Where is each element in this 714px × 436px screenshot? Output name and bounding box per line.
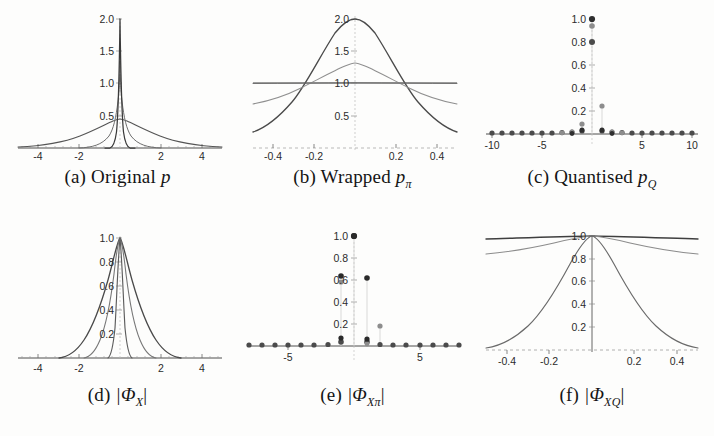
- y-tick-label: 0.2: [571, 321, 586, 333]
- x-tick-label: 4: [199, 150, 205, 162]
- plot-area-b: -0.4 -0.2 0.2 0.4 0.5 1.0 1.5 2.0: [235, 0, 470, 162]
- x-tick-labels-a: -4 -2 2 4: [33, 150, 205, 162]
- y-tick-label: 0.6: [333, 274, 348, 286]
- x-tick-labels-f: -0.4 -0.2 0.2 0.4: [498, 355, 684, 367]
- y-tick-label: 0.8: [571, 36, 586, 48]
- y-tick-label: 0.8: [333, 252, 348, 264]
- x-tick-label: 0.2: [627, 355, 642, 367]
- y-tick-label: 0.5: [99, 110, 114, 122]
- y-tick-label: 2.0: [334, 13, 349, 25]
- panel-grid: -4 -2 2 4 0.5 1.0 1.5 2.0 (a) Original: [0, 0, 714, 436]
- axis-group-f: [486, 236, 698, 354]
- x-tick-label: 0.2: [389, 150, 404, 162]
- caption-symbol: |Φ: [584, 384, 604, 405]
- x-tick-label: -2: [74, 150, 83, 162]
- plot-c-svg: -10 -5 5 10 0.2 0.4 0.6 0.8 1.0: [470, 0, 714, 162]
- plot-area-e: -5 5 0.2 0.4 0.6 0.8 1.0: [235, 218, 470, 380]
- y-tick-label: 0.2: [333, 318, 348, 330]
- caption-text: Wrapped: [321, 166, 391, 187]
- caption-symbol: p: [161, 166, 171, 187]
- caption-closing-bar: |: [621, 384, 625, 405]
- y-tick-label: 0.6: [571, 275, 586, 287]
- x-tick-labels-c: -10 -5 5 10: [484, 139, 698, 151]
- x-tick-label: 10: [686, 139, 698, 151]
- caption-prefix: (b): [293, 166, 316, 187]
- caption-subscript: XQ: [604, 395, 620, 409]
- plot-area-c: -10 -5 5 10 0.2 0.4 0.6 0.8 1.0: [470, 0, 714, 162]
- y-tick-label: 1.0: [333, 230, 348, 242]
- caption-prefix: (f): [559, 384, 579, 405]
- panel-caption-a: (a) Original p: [64, 166, 170, 188]
- panel-d: -4 -2 2 4 0.2 0.4 0.6 0.8 1.0 (d): [0, 218, 235, 436]
- panel-caption-b: (b) Wrapped pπ: [293, 166, 412, 192]
- y-tick-labels-f: 0.2 0.4 0.6 0.8 1.0: [571, 230, 586, 333]
- caption-symbol: |Φ: [116, 384, 136, 405]
- caption-text: Original: [91, 166, 156, 187]
- x-tick-label: 0.4: [430, 150, 445, 162]
- x-tick-label: -4: [33, 362, 42, 374]
- caption-symbol: |Φ: [347, 384, 367, 405]
- y-tick-labels-d: 0.2 0.4 0.6 0.8 1.0: [99, 232, 114, 340]
- y-tick-label: 1.0: [571, 230, 586, 242]
- figure-container: -4 -2 2 4 0.5 1.0 1.5 2.0 (a) Original: [0, 0, 714, 436]
- panel-a: -4 -2 2 4 0.5 1.0 1.5 2.0 (a) Original: [0, 0, 235, 218]
- caption-text: Quantised: [554, 166, 633, 187]
- panel-f: -0.4 -0.2 0.2 0.4 0.2 0.4 0.6 0.8 1.0 (f: [470, 218, 714, 436]
- y-tick-label: 1.0: [571, 13, 586, 25]
- caption-subscript: Q: [648, 177, 657, 191]
- y-tick-label: 0.2: [571, 105, 586, 117]
- panel-c: -10 -5 5 10 0.2 0.4 0.6 0.8 1.0 (c): [470, 0, 714, 218]
- x-tick-label: 0.4: [670, 355, 685, 367]
- x-tick-labels-b: -0.4 -0.2 0.2 0.4: [264, 150, 444, 162]
- x-tick-label: -5: [283, 351, 292, 363]
- caption-prefix: (d): [88, 384, 111, 405]
- caption-closing-bar: |: [381, 384, 385, 405]
- y-tick-label: 0.2: [99, 328, 114, 340]
- x-tick-label: 5: [417, 351, 423, 363]
- y-tick-label: 1.5: [334, 45, 349, 57]
- plot-b-svg: -0.4 -0.2 0.2 0.4 0.5 1.0 1.5 2.0: [235, 0, 470, 162]
- panel-b: -0.4 -0.2 0.2 0.4 0.5 1.0 1.5 2.0 (b) Wr…: [235, 0, 470, 218]
- y-tick-label: 0.8: [99, 256, 114, 268]
- plot-area-a: -4 -2 2 4 0.5 1.0 1.5 2.0: [0, 0, 235, 162]
- caption-subscript: π: [406, 177, 412, 191]
- caption-prefix: (c): [527, 166, 549, 187]
- x-tick-labels-e: -5 5: [283, 351, 423, 363]
- y-tick-label: 0.6: [571, 59, 586, 71]
- y-tick-label: 1.0: [334, 77, 349, 89]
- x-tick-label: -10: [484, 139, 499, 151]
- plot-area-f: -0.4 -0.2 0.2 0.4 0.2 0.4 0.6 0.8 1.0: [470, 218, 714, 380]
- panel-caption-c: (c) Quantised pQ: [527, 166, 656, 192]
- caption-prefix: (a): [64, 166, 86, 187]
- caption-symbol: p: [396, 166, 406, 187]
- y-tick-label: 0.6: [99, 280, 114, 292]
- y-tick-label: 0.8: [571, 253, 586, 265]
- y-tick-label: 1.0: [99, 232, 114, 244]
- y-tick-label: 1.0: [99, 77, 114, 89]
- curves-b: [253, 19, 457, 132]
- panel-e: -5 5 0.2 0.4 0.6 0.8 1.0 (e) |ΦXπ|: [235, 218, 470, 436]
- x-tick-label: -0.2: [540, 355, 558, 367]
- y-tick-label: 0.5: [334, 110, 349, 122]
- curve-b-peaked: [253, 19, 457, 132]
- x-tick-label: -5: [537, 139, 546, 151]
- caption-closing-bar: |: [143, 384, 147, 405]
- y-tick-labels-a: 0.5 1.0 1.5 2.0: [99, 13, 114, 122]
- caption-subscript: Xπ: [367, 395, 381, 409]
- plot-area-d: -4 -2 2 4 0.2 0.4 0.6 0.8 1.0: [0, 218, 235, 380]
- plot-e-svg: -5 5 0.2 0.4 0.6 0.8 1.0: [235, 218, 470, 380]
- y-tick-labels-c: 0.2 0.4 0.6 0.8 1.0: [571, 13, 586, 117]
- y-tick-marks: [351, 19, 357, 116]
- plot-d-svg: -4 -2 2 4 0.2 0.4 0.6 0.8 1.0: [0, 218, 235, 380]
- y-tick-label: 0.4: [333, 296, 348, 308]
- x-tick-label: -4: [33, 150, 42, 162]
- x-tick-label: 2: [158, 150, 164, 162]
- panel-caption-d: (d) |ΦX|: [88, 384, 147, 410]
- x-tick-label: -0.4: [498, 355, 516, 367]
- x-tick-labels-d: -4 -2 2 4: [33, 362, 205, 374]
- panel-caption-f: (f) |ΦXQ|: [559, 384, 624, 410]
- axis-group-d: [18, 236, 222, 360]
- y-tick-label: 0.4: [99, 304, 114, 316]
- x-tick-label: 5: [639, 139, 645, 151]
- x-tick-label: -0.2: [305, 150, 323, 162]
